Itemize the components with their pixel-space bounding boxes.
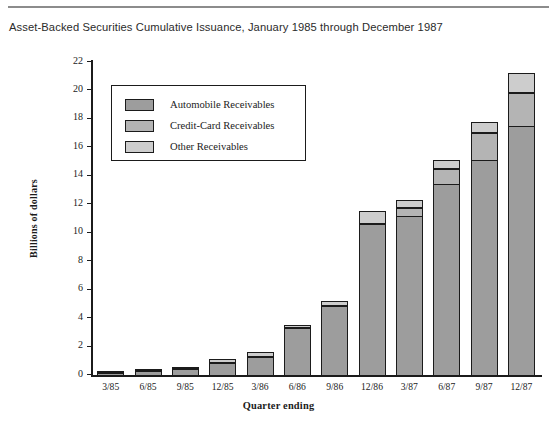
x-axis-tick-label: 6/87: [438, 381, 455, 392]
bar-segment-auto: [359, 224, 386, 375]
bar-12-85: [209, 359, 236, 375]
bar-segment-other: [508, 73, 535, 93]
y-axis-tick: 8: [87, 260, 92, 261]
x-axis-tick-label: 3/85: [102, 381, 119, 392]
y-axis-tick-label: 6: [78, 282, 83, 293]
y-axis-tick-label: 4: [78, 311, 83, 322]
bar-segment-auto: [97, 373, 124, 375]
y-axis-tick-label: 0: [78, 368, 83, 379]
bar-12-86: [359, 211, 386, 375]
bar-segment-auto: [247, 357, 274, 375]
x-axis-tick-label: 12/87: [510, 381, 532, 392]
x-axis-tick-label: 6/85: [139, 381, 156, 392]
y-axis-tick-label: 16: [73, 140, 83, 151]
y-axis-tick-label: 10: [73, 225, 83, 236]
bar-9-87: [471, 122, 498, 375]
y-axis-tick: 14: [87, 175, 92, 176]
y-axis-tick: 16: [87, 146, 92, 147]
y-axis-tick: 6: [87, 289, 92, 290]
bar-segment-auto: [396, 216, 423, 375]
bar-12-87: [508, 73, 535, 375]
y-axis-tick: 4: [87, 317, 92, 318]
legend-item-automobile: Automobile Receivables: [125, 95, 305, 114]
y-axis-tick: 2: [87, 346, 92, 347]
y-axis-tick: 12: [87, 203, 92, 204]
legend-item-credit-card: Credit-Card Receivables: [125, 116, 305, 135]
bar-3-86: [247, 352, 274, 375]
bar-segment-auto: [172, 369, 199, 375]
x-axis-title: Quarter ending: [0, 400, 557, 411]
bar-segment-card: [396, 208, 423, 216]
bar-segment-auto: [135, 371, 162, 375]
bar-6-85: [135, 369, 162, 375]
legend-label-automobile: Automobile Receivables: [170, 99, 274, 110]
figure-container: Asset-Backed Securities Cumulative Issua…: [0, 0, 557, 426]
legend-swatch-icon-automobile: [125, 99, 154, 111]
x-axis-tick-label: 3/87: [401, 381, 418, 392]
x-axis-tick-label: 6/86: [289, 381, 306, 392]
bar-segment-card: [433, 169, 460, 185]
bar-segment-card: [508, 93, 535, 126]
bar-segment-auto: [209, 363, 236, 375]
bar-segment-other: [396, 200, 423, 208]
figure-title: Asset-Backed Securities Cumulative Issua…: [9, 21, 443, 33]
header-rule: [8, 6, 549, 8]
bar-segment-auto: [321, 306, 348, 375]
bar-6-86: [284, 325, 311, 375]
x-axis-tick-label: 9/87: [475, 381, 492, 392]
bar-segment-other: [359, 211, 386, 224]
legend-label-credit-card: Credit-Card Receivables: [170, 120, 274, 131]
x-axis-tick-label: 12/85: [212, 381, 234, 392]
x-axis-tick-label: 9/85: [177, 381, 194, 392]
bar-segment-card: [471, 133, 498, 160]
y-axis-title-text: Billions of dollars: [28, 179, 39, 258]
bar-6-87: [433, 160, 460, 375]
bar-segment-other: [471, 122, 498, 133]
x-axis-tick-label: 3/86: [251, 381, 268, 392]
legend-swatch-icon-other: [125, 141, 154, 153]
bar-9-86: [321, 301, 348, 375]
bar-3-85: [97, 371, 124, 375]
y-axis-tick-label: 18: [73, 111, 83, 122]
y-axis-tick-label: 12: [73, 197, 83, 208]
bar-3-87: [396, 200, 423, 375]
legend-swatch-icon-credit-card: [125, 120, 154, 132]
bar-segment-auto: [508, 126, 535, 375]
bar-9-85: [172, 367, 199, 375]
y-axis-tick-label: 8: [78, 254, 83, 265]
legend-item-other: Other Receivables: [125, 137, 305, 156]
y-axis-tick-label: 22: [73, 55, 83, 66]
x-axis-tick-label: 12/86: [361, 381, 383, 392]
y-axis-tick: 22: [87, 61, 92, 62]
y-axis-tick-label: 14: [73, 168, 83, 179]
y-axis-tick: 10: [87, 232, 92, 233]
bar-segment-other: [433, 160, 460, 169]
legend: Automobile Receivables Credit-Card Recei…: [111, 85, 306, 161]
y-axis-tick: 18: [87, 118, 92, 119]
bar-segment-auto: [471, 160, 498, 375]
bar-segment-auto: [433, 184, 460, 375]
x-axis-line: [91, 375, 542, 377]
bar-segment-auto: [284, 328, 311, 375]
y-axis-tick: 20: [87, 89, 92, 90]
x-axis-tick-label: 9/86: [326, 381, 343, 392]
legend-label-other: Other Receivables: [170, 141, 248, 152]
y-axis-tick-label: 20: [73, 83, 83, 94]
y-axis-title: Billions of dollars: [26, 62, 40, 375]
y-axis-tick: 0: [87, 374, 92, 375]
y-axis-tick-label: 2: [78, 339, 83, 350]
